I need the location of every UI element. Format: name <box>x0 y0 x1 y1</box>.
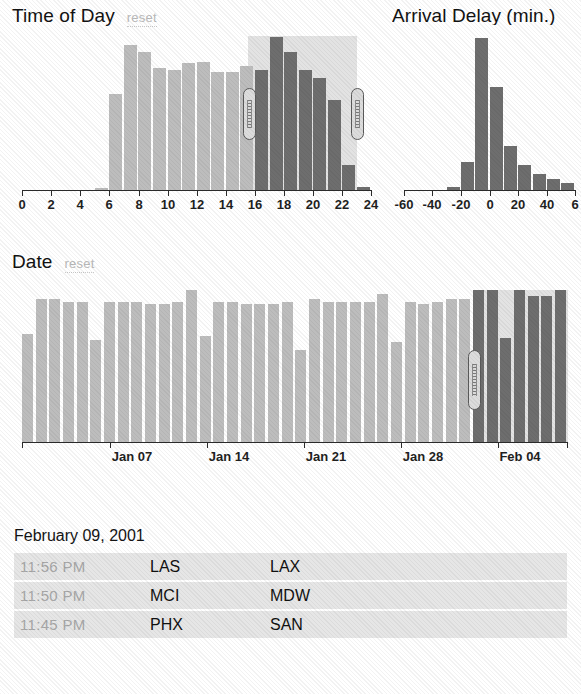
bar <box>131 302 142 442</box>
bar <box>118 302 129 442</box>
bar <box>446 299 457 442</box>
time-of-day-axis: 0 2 4 6 8 10 12 14 16 18 20 22 24 <box>22 190 372 216</box>
axis-tick-label: 14 <box>219 198 233 212</box>
axis-tick <box>567 442 568 448</box>
axis-tick <box>547 190 548 196</box>
time-of-day-brush-handle-right[interactable] <box>351 88 364 140</box>
axis-tick <box>255 190 256 196</box>
time-of-day-reset-link[interactable]: reset <box>127 10 157 27</box>
time-of-day-brush-handle-left[interactable] <box>243 88 256 140</box>
bar <box>145 304 156 442</box>
bar <box>504 146 517 190</box>
bar <box>475 38 488 190</box>
arrival-delay-title: Arrival Delay (min.) <box>392 6 581 25</box>
bar <box>168 70 181 190</box>
axis-tick <box>207 442 208 448</box>
bar <box>197 62 210 190</box>
arrival-delay-title-label: Arrival Delay (min.) <box>392 6 556 25</box>
flight-dest-code: LAX <box>270 558 300 576</box>
axis-line <box>22 442 568 443</box>
chart-time-of-day: Time of Dayreset <box>12 6 377 226</box>
bar <box>313 78 326 190</box>
flight-origin-code: MCI <box>150 587 270 605</box>
axis-tick-label: 16 <box>248 198 262 212</box>
flight-origin-code: LAS <box>150 558 270 576</box>
date-axis: Jan 07 Jan 14 Jan 21 Jan 28 Feb 04 <box>22 442 568 468</box>
bar <box>487 290 498 442</box>
axis-tick-label: 24 <box>364 198 378 212</box>
bar <box>350 302 361 442</box>
bar <box>514 290 525 442</box>
chart-date: Datereset <box>12 252 572 482</box>
table-row[interactable]: 11:45 PM PHX SAN <box>14 611 567 638</box>
axis-tick-label: Feb 04 <box>499 450 540 464</box>
bar <box>186 290 197 442</box>
chart-arrival-delay: Arrival Delay (min.) -60 - <box>392 6 581 226</box>
axis-tick <box>51 190 52 196</box>
bar <box>295 350 306 442</box>
time-of-day-title: Time of Dayreset <box>12 6 157 27</box>
bar <box>405 302 416 442</box>
bar <box>328 100 341 190</box>
date-reset-link[interactable]: reset <box>65 256 95 273</box>
axis-tick <box>284 190 285 196</box>
axis-tick-label: -20 <box>452 198 471 212</box>
bar <box>226 72 239 190</box>
flight-origin-code: PHX <box>150 616 270 634</box>
bar <box>284 52 297 190</box>
axis-tick <box>226 190 227 196</box>
axis-tick-label: 22 <box>335 198 349 212</box>
axis-tick-label: 40 <box>540 198 554 212</box>
axis-tick <box>22 190 23 196</box>
axis-tick <box>401 442 402 448</box>
grip-lines-icon <box>472 364 477 397</box>
axis-tick <box>110 442 111 448</box>
arrival-delay-bars <box>404 30 576 190</box>
table-row[interactable]: 11:50 PM MCI MDW <box>14 582 567 609</box>
bar <box>227 302 238 442</box>
axis-tick-label: 4 <box>76 198 83 212</box>
axis-tick <box>432 190 433 196</box>
axis-tick-label: 0 <box>486 198 493 212</box>
bar <box>500 338 511 442</box>
date-brush-handle-left[interactable] <box>468 350 481 410</box>
bar <box>518 165 531 190</box>
arrival-delay-plot[interactable] <box>404 30 576 190</box>
date-bars <box>22 290 568 442</box>
table-row[interactable]: 11:56 PM LAS LAX <box>14 553 567 580</box>
axis-tick-label: 20 <box>306 198 320 212</box>
bar <box>90 340 101 442</box>
axis-tick-label: Jan 28 <box>403 450 443 464</box>
axis-tick <box>461 190 462 196</box>
axis-tick-label: 18 <box>277 198 291 212</box>
bar <box>364 302 375 442</box>
bar <box>49 299 60 442</box>
axis-tick-label: 6 <box>105 198 112 212</box>
flight-list-day-header: February 09, 2001 <box>14 527 567 545</box>
axis-tick <box>518 190 519 196</box>
bar <box>432 302 443 442</box>
bar <box>200 336 211 442</box>
bar <box>282 302 293 442</box>
axis-tick-label: -60 <box>395 198 414 212</box>
bar <box>342 165 355 190</box>
bar <box>309 299 320 442</box>
grip-lines-icon <box>247 100 252 128</box>
flight-dest-code: SAN <box>270 616 303 634</box>
bar <box>323 302 334 442</box>
bar <box>63 302 74 442</box>
bar <box>172 302 183 442</box>
axis-tick <box>575 190 576 196</box>
time-of-day-plot[interactable] <box>22 30 372 190</box>
flight-time: 11:45 PM <box>14 616 150 633</box>
bar <box>270 37 283 190</box>
axis-tick <box>490 190 491 196</box>
axis-tick-label: 12 <box>190 198 204 212</box>
axis-tick-label: 10 <box>161 198 175 212</box>
bar <box>391 342 402 442</box>
axis-tick-label: Jan 07 <box>112 450 152 464</box>
bar <box>299 70 312 190</box>
bar <box>268 304 279 442</box>
time-of-day-bars <box>22 30 372 190</box>
date-plot[interactable] <box>22 290 568 442</box>
